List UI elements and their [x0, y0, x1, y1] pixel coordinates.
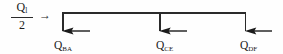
branch-label-ce: QCE [156, 39, 173, 54]
branch-label-ba-subscript: BA [62, 45, 72, 53]
branch-label-df-subscript: DF [248, 45, 257, 53]
shear-flow-distribution-diagram: Ql 2 → QBA [0, 0, 283, 54]
branch-label-ba: QBA [54, 39, 72, 54]
branch-arrow-df [245, 27, 272, 34]
branch-label-df: QDF [240, 39, 257, 54]
branch-label-ce-subscript: CE [164, 45, 173, 53]
branch-arrow-ce [159, 27, 187, 34]
branch-arrow-ba [62, 27, 90, 34]
